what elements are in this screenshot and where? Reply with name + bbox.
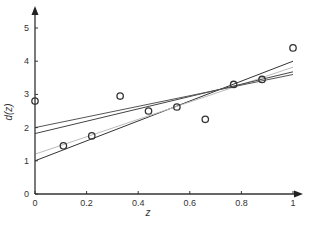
x-tick-label: 0: [32, 198, 37, 208]
y-tick-label: 3: [24, 89, 29, 99]
y-axis-label: d(z): [3, 103, 14, 120]
data-point: [290, 45, 296, 51]
x-tick-label: 0.2: [80, 198, 93, 208]
x-tick-label: 0.4: [132, 198, 145, 208]
y-axis-arrow-icon: [32, 6, 39, 15]
x-tick-label: 0.8: [235, 198, 248, 208]
data-point: [145, 108, 151, 114]
ticks: 00.20.40.60.81012345: [24, 23, 296, 208]
y-tick-label: 5: [24, 23, 29, 33]
x-tick-label: 1: [290, 198, 295, 208]
y-tick-label: 0: [24, 189, 29, 199]
y-tick-label: 2: [24, 123, 29, 133]
x-axis-arrow-icon: [294, 191, 303, 198]
fit-line-fit-2: [35, 67, 293, 154]
y-tick-label: 4: [24, 56, 29, 66]
fit-line-fit-3: [35, 72, 293, 134]
data-point: [117, 93, 123, 99]
x-axis-label: z: [145, 207, 151, 218]
fit-lines: [35, 61, 293, 161]
y-tick-label: 1: [24, 156, 29, 166]
fit-line-fit-4: [35, 74, 293, 127]
chart: 00.20.40.60.81012345 z d(z): [0, 0, 310, 225]
data-points: [32, 45, 296, 149]
x-tick-label: 0.6: [184, 198, 197, 208]
data-point: [202, 116, 208, 122]
